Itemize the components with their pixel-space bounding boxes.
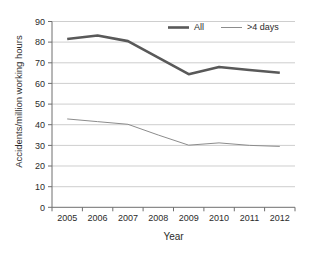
legend-label-all: All	[194, 22, 204, 32]
y-tick-label: 90	[35, 17, 45, 27]
plot-area: 90 80 70 60 50 40 30 20 10 0 2005 2006	[0, 0, 310, 253]
x-tick-label: 2005	[57, 213, 77, 223]
x-tick-label: 2011	[240, 213, 259, 223]
y-tick-label: 80	[35, 37, 45, 47]
x-axis-title: Year	[52, 231, 295, 242]
y-tick-label: 40	[35, 120, 45, 130]
y-tick-label: 70	[35, 58, 45, 68]
legend: All >4 days	[168, 22, 279, 32]
x-tick-label: 2007	[118, 213, 138, 223]
x-tick-label: 2010	[209, 213, 229, 223]
y-tick-label: 20	[35, 161, 45, 171]
x-tick-label: 2009	[179, 213, 199, 223]
x-tick-label: 2012	[270, 213, 290, 223]
y-tickmarks	[48, 22, 52, 208]
y-tick-labels: 90 80 70 60 50 40 30 20 10 0	[35, 17, 45, 213]
y-tick-label: 0	[40, 203, 45, 213]
y-tick-label: 30	[35, 141, 45, 151]
line-chart: Accidents/million working hours	[0, 0, 310, 253]
x-tick-label: 2006	[88, 213, 108, 223]
x-tick-label: 2008	[148, 213, 168, 223]
y-tick-label: 60	[35, 79, 45, 89]
legend-label-gt4days: >4 days	[247, 22, 279, 32]
series-line-all	[67, 36, 280, 75]
gridlines	[52, 22, 295, 187]
x-tick-labels: 2005 2006 2007 2008 2009 2010 2011 2012	[57, 213, 290, 223]
y-tick-label: 10	[35, 182, 45, 192]
series-line-gt4days	[67, 119, 280, 146]
y-tick-label: 50	[35, 99, 45, 109]
x-tickmarks	[52, 207, 295, 211]
